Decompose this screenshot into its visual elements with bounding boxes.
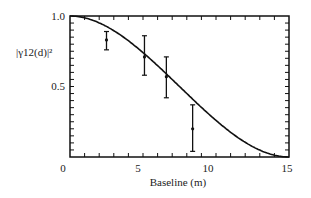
model-curve xyxy=(70,16,289,157)
x-tick-5: 5 xyxy=(135,162,141,174)
x-tick-0: 0 xyxy=(60,162,66,174)
x-tick-10: 10 xyxy=(203,162,215,174)
y-axis-label: |γ12(d)|² xyxy=(16,46,53,59)
error-bar xyxy=(190,105,195,152)
x-tick-15: 15 xyxy=(282,162,294,174)
y-tick-1.0: 1.0 xyxy=(51,10,65,22)
x-axis-label: Baseline (m) xyxy=(150,176,207,189)
error-bar xyxy=(164,57,169,98)
error-bar xyxy=(104,32,109,50)
y-tick-0.5: 0.5 xyxy=(51,80,65,92)
chart: 1.0 0.5 0 5 10 15 |γ12(d)|² Baseline (m) xyxy=(0,0,311,198)
error-bars xyxy=(104,32,195,152)
